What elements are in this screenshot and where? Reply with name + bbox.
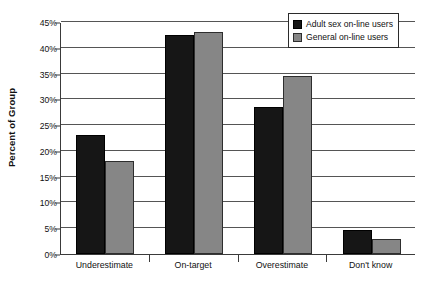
y-tick-label: 40% xyxy=(23,44,57,54)
bar-on-target-series-0 xyxy=(165,35,194,254)
bar-overestimate-series-1 xyxy=(283,76,312,254)
y-tick-label: 30% xyxy=(23,95,57,105)
bars-layer xyxy=(61,23,415,254)
x-axis-separator xyxy=(238,255,239,262)
legend-swatch-icon xyxy=(293,33,302,42)
legend-label: General on-line users xyxy=(306,32,388,42)
bar-don-t-know-series-1 xyxy=(372,239,401,254)
y-tick-label: 0% xyxy=(23,250,57,260)
chart-legend: Adult sex on-line usersGeneral on-line u… xyxy=(288,13,399,48)
legend-item[interactable]: Adult sex on-line users xyxy=(293,18,393,30)
x-axis-separator xyxy=(149,255,150,262)
legend-item[interactable]: General on-line users xyxy=(293,31,393,43)
y-tick-label: 45% xyxy=(23,18,57,28)
bar-on-target-series-1 xyxy=(194,32,223,254)
bar-group xyxy=(150,23,239,254)
y-axis-title-text: Percent of Group xyxy=(7,88,18,167)
bar-overestimate-series-0 xyxy=(254,107,283,254)
plot-area xyxy=(60,23,415,255)
y-tick-label: 5% xyxy=(23,224,57,234)
y-tick-label: 20% xyxy=(23,147,57,157)
x-tick-label-don-t-know: Don't know xyxy=(349,260,392,270)
bar-underestimate-series-0 xyxy=(76,135,105,254)
bar-don-t-know-series-0 xyxy=(343,230,372,254)
x-axis-separator xyxy=(326,255,327,262)
bar-group xyxy=(239,23,328,254)
y-tick-label: 10% xyxy=(23,198,57,208)
legend-swatch-icon xyxy=(293,20,302,29)
bar-chart-figure: Percent of Group 0%5%10%15%20%25%30%35%4… xyxy=(0,0,429,285)
y-axis-title: Percent of Group xyxy=(2,0,22,255)
bar-group xyxy=(327,23,416,254)
legend-label: Adult sex on-line users xyxy=(306,19,393,29)
bar-underestimate-series-1 xyxy=(105,161,134,254)
y-tick-label: 25% xyxy=(23,121,57,131)
y-tick-label: 15% xyxy=(23,173,57,183)
x-tick-label-on-target: On-target xyxy=(175,260,212,270)
x-tick-label-overestimate: Overestimate xyxy=(256,260,308,270)
x-tick-label-underestimate: Underestimate xyxy=(76,260,133,270)
bar-group xyxy=(61,23,150,254)
y-tick-label: 35% xyxy=(23,70,57,80)
